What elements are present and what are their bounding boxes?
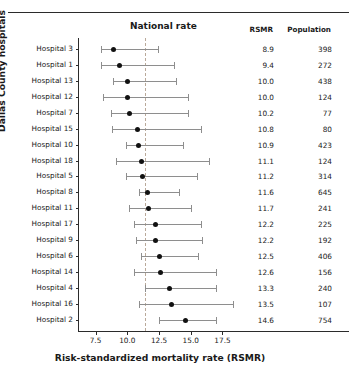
ci-upper-cap xyxy=(197,173,198,180)
ci-upper-cap xyxy=(183,142,184,149)
cell-rsmr: 12.2 xyxy=(248,236,274,245)
y-axis-tick-label: Hospital 1 xyxy=(36,60,73,69)
ci-lower-cap xyxy=(101,62,102,69)
top-rule-divider xyxy=(8,12,349,13)
column-header-rsmr: RSMR xyxy=(247,25,273,34)
x-axis-tick xyxy=(127,331,128,335)
cell-population: 156 xyxy=(282,268,332,277)
ci-lower-cap xyxy=(129,205,130,212)
y-axis-tick-label: Hospital 15 xyxy=(32,124,73,133)
x-axis-tick-label: 7.5 xyxy=(90,336,102,345)
ci-upper-cap xyxy=(201,126,202,133)
ci-upper-cap xyxy=(216,269,217,276)
y-axis-tick xyxy=(76,145,80,146)
confidence-interval-line xyxy=(116,161,209,162)
ci-upper-cap xyxy=(216,317,217,324)
rsmr-point-marker xyxy=(146,206,151,211)
confidence-interval-line xyxy=(113,81,175,82)
rsmr-point-marker xyxy=(136,143,141,148)
y-axis-tick xyxy=(76,192,80,193)
x-axis-tick-label: 12.5 xyxy=(151,336,167,345)
cell-rsmr: 11.1 xyxy=(248,157,274,166)
ci-lower-cap xyxy=(136,237,137,244)
confidence-interval-line xyxy=(101,49,158,50)
rsmr-point-marker xyxy=(125,95,130,100)
cell-population: 398 xyxy=(282,45,332,54)
x-axis-title: Risk-standardized mortality rate (RSMR) xyxy=(0,352,320,363)
ci-lower-cap xyxy=(139,189,140,196)
cell-rsmr: 8.9 xyxy=(248,45,274,54)
rsmr-point-marker xyxy=(111,47,116,52)
ci-lower-cap xyxy=(103,94,104,101)
rsmr-point-marker xyxy=(117,63,122,68)
y-axis-tick xyxy=(76,304,80,305)
ci-upper-cap xyxy=(176,78,177,85)
cell-population: 107 xyxy=(282,300,332,309)
column-header-population: Population xyxy=(281,25,331,34)
confidence-interval-line xyxy=(141,256,198,257)
rsmr-point-marker xyxy=(153,238,158,243)
x-axis-tick xyxy=(222,331,223,335)
y-axis-tick xyxy=(76,113,80,114)
y-axis-title: Dallas County hospitals xyxy=(0,10,7,132)
ci-lower-cap xyxy=(141,253,142,260)
y-axis-tick-label: Hospital 3 xyxy=(36,44,73,53)
cell-rsmr: 13.5 xyxy=(248,300,274,309)
ci-upper-cap xyxy=(191,205,192,212)
ci-upper-cap xyxy=(209,158,210,165)
y-axis-tick-label: Hospital 13 xyxy=(32,76,73,85)
y-axis-tick xyxy=(76,208,80,209)
rsmr-point-marker xyxy=(139,159,144,164)
x-axis-tick xyxy=(96,331,97,335)
confidence-interval-line xyxy=(103,97,188,98)
y-axis-tick xyxy=(76,161,80,162)
rsmr-point-marker xyxy=(183,318,188,323)
y-axis-tick xyxy=(76,288,80,289)
y-axis-tick-label: Hospital 14 xyxy=(32,267,73,276)
ci-lower-cap xyxy=(126,173,127,180)
cell-rsmr: 11.7 xyxy=(248,204,274,213)
ci-upper-cap xyxy=(188,94,189,101)
confidence-interval-line xyxy=(112,129,201,130)
cell-population: 314 xyxy=(282,172,332,181)
rsmr-point-marker xyxy=(158,270,163,275)
cell-population: 225 xyxy=(282,220,332,229)
x-axis-extension-line xyxy=(238,331,349,332)
ci-lower-cap xyxy=(159,317,160,324)
cell-population: 240 xyxy=(282,284,332,293)
cell-population: 124 xyxy=(282,93,332,102)
cell-rsmr: 10.2 xyxy=(248,109,274,118)
y-axis-tick-label: Hospital 11 xyxy=(32,203,73,212)
confidence-interval-line xyxy=(126,176,197,177)
y-axis-tick-label: Hospital 5 xyxy=(36,171,73,180)
y-axis-tick-label: Hospital 10 xyxy=(32,140,73,149)
cell-rsmr: 12.5 xyxy=(248,252,274,261)
y-axis-tick-label: Hospital 18 xyxy=(32,156,73,165)
cell-population: 423 xyxy=(282,141,332,150)
confidence-interval-line xyxy=(139,304,233,305)
rsmr-point-marker xyxy=(125,79,130,84)
confidence-interval-line xyxy=(136,240,202,241)
y-axis-tick xyxy=(76,256,80,257)
ci-lower-cap xyxy=(145,285,146,292)
x-axis-tick-label: 17.5 xyxy=(214,336,230,345)
y-axis-tick-label: Hospital 12 xyxy=(32,92,73,101)
x-axis-tick xyxy=(191,331,192,335)
cell-population: 241 xyxy=(282,204,332,213)
cell-population: 124 xyxy=(282,157,332,166)
rsmr-point-marker xyxy=(135,127,140,132)
cell-rsmr: 12.6 xyxy=(248,268,274,277)
ci-lower-cap xyxy=(134,221,135,228)
rsmr-point-marker xyxy=(127,111,132,116)
ci-upper-cap xyxy=(174,62,175,69)
cell-population: 406 xyxy=(282,252,332,261)
y-axis-tick xyxy=(76,129,80,130)
cell-population: 438 xyxy=(282,77,332,86)
ci-lower-cap xyxy=(101,46,102,53)
ci-upper-cap xyxy=(202,237,203,244)
y-axis-tick xyxy=(76,65,80,66)
cell-rsmr: 12.2 xyxy=(248,220,274,229)
confidence-interval-line xyxy=(129,208,191,209)
ci-upper-cap xyxy=(201,221,202,228)
cell-rsmr: 10.8 xyxy=(248,125,274,134)
